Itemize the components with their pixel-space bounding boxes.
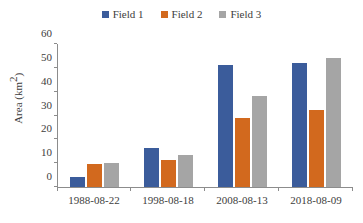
x-axis-labels: 1988-08-221998-08-182008-08-132018-08-09	[57, 194, 353, 206]
bar-group	[131, 44, 205, 187]
plot-area: 0102030405060	[57, 44, 353, 187]
bar[interactable]	[70, 177, 85, 187]
legend-entry[interactable]: Field 2	[161, 9, 203, 20]
bar[interactable]	[235, 118, 250, 187]
x-axis-tick-mark	[130, 187, 131, 191]
y-tick-label: 40	[41, 75, 52, 86]
x-axis-tick-mark	[278, 187, 279, 191]
y-axis-title-base: Area (km	[11, 82, 23, 124]
x-axis-tick-mark	[352, 187, 353, 191]
bar[interactable]	[309, 110, 324, 187]
x-axis-line	[57, 187, 353, 188]
x-tick-label: 2018-08-09	[279, 194, 353, 206]
legend-swatch-icon	[161, 11, 168, 18]
bar-group	[279, 44, 353, 187]
chart-legend: Field 1Field 2Field 3	[0, 9, 363, 20]
bar[interactable]	[252, 96, 267, 187]
bar-chart-figure: Field 1Field 2Field 3 Area (km2) 0102030…	[0, 0, 363, 223]
bar[interactable]	[326, 58, 341, 187]
y-axis-title-tail: )	[11, 72, 23, 76]
y-axis-title-text: Area (km2)	[7, 72, 24, 123]
legend-swatch-icon	[102, 11, 109, 18]
x-tick-label: 1998-08-18	[131, 194, 205, 206]
y-tick-label: 50	[41, 51, 52, 62]
y-axis-title-superscript: 2	[7, 76, 19, 82]
legend-label: Field 2	[172, 9, 203, 20]
legend-entry[interactable]: Field 3	[219, 9, 261, 20]
legend-swatch-icon	[219, 11, 226, 18]
y-tick-label: 60	[41, 28, 52, 39]
bar[interactable]	[178, 155, 193, 187]
legend-entry[interactable]: Field 1	[102, 9, 144, 20]
bar[interactable]	[104, 163, 119, 187]
bar[interactable]	[161, 160, 176, 187]
bar-group	[205, 44, 279, 187]
bar-group	[57, 44, 131, 187]
y-tick-label: 10	[41, 147, 52, 158]
legend-label: Field 1	[113, 9, 144, 20]
x-axis-tick-mark	[57, 187, 58, 191]
y-axis-title: Area (km2)	[6, 0, 24, 196]
bar[interactable]	[218, 65, 233, 187]
bar-groups	[57, 44, 353, 187]
bar[interactable]	[292, 63, 307, 187]
bar[interactable]	[144, 148, 159, 187]
y-tick-label: 0	[47, 171, 53, 182]
y-tick-label: 20	[41, 123, 52, 134]
x-tick-label: 2008-08-13	[205, 194, 279, 206]
legend-label: Field 3	[230, 9, 261, 20]
bar[interactable]	[87, 164, 102, 187]
x-tick-label: 1988-08-22	[57, 194, 131, 206]
x-axis-tick-mark	[204, 187, 205, 191]
y-tick-label: 30	[41, 99, 52, 110]
